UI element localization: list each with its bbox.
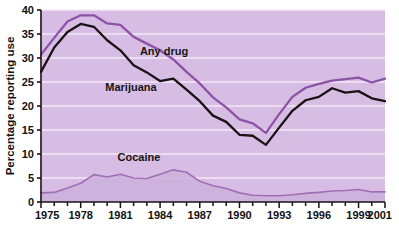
y-axis-tick-label: 0 [28, 196, 34, 208]
series-label-any-drug: Any drug [140, 45, 188, 57]
y-axis-tick-label: 20 [22, 100, 34, 112]
y-axis-tick-label: 15 [22, 124, 34, 136]
x-axis-tick-label: 1996 [307, 209, 331, 221]
x-axis-tick-label: 1987 [188, 209, 212, 221]
x-axis-tick-label: 1978 [68, 209, 92, 221]
chart-container: 0510152025303540 19751978198119841987199… [0, 0, 399, 234]
y-axis-tick-label: 25 [22, 76, 34, 88]
line-chart: 0510152025303540 19751978198119841987199… [0, 0, 399, 234]
y-axis-tick-label: 35 [22, 28, 34, 40]
x-axis-tick-label: 2001 [368, 209, 392, 221]
x-axis-tick-label: 1984 [148, 209, 173, 221]
series-label-cocaine: Cocaine [118, 151, 161, 163]
y-axis-title-group: Percentage reporting use [4, 37, 16, 176]
y-axis-tick-label: 5 [28, 172, 34, 184]
y-axis-tick-label: 10 [22, 148, 34, 160]
x-axis-tick-label: 1981 [108, 209, 132, 221]
series-label-marijuana: Marijuana [105, 81, 157, 93]
x-axis-ticks-group: 1975197819811984198719901993199619992001 [35, 202, 392, 221]
x-axis-tick-label: 1990 [227, 209, 251, 221]
y-axis-ticks-group: 0510152025303540 [22, 4, 41, 208]
x-axis-tick-label: 1993 [267, 209, 291, 221]
y-axis-tick-label: 40 [22, 4, 34, 16]
y-axis-tick-label: 30 [22, 52, 34, 64]
y-axis-title: Percentage reporting use [4, 37, 16, 176]
x-axis-tick-label: 1975 [35, 209, 59, 221]
